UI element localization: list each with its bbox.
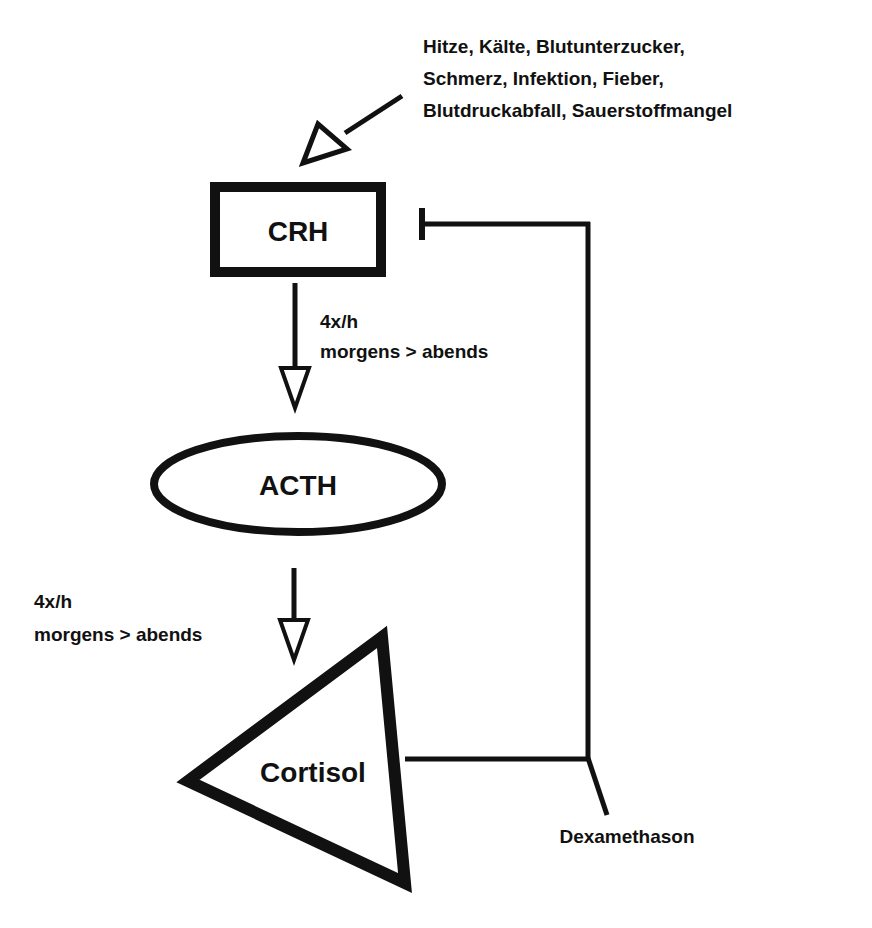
svg-text:Hitze, Kälte, Blutunterzucker,: Hitze, Kälte, Blutunterzucker,	[423, 36, 685, 57]
svg-text:CRH: CRH	[268, 216, 329, 247]
svg-text:Dexamethason: Dexamethason	[559, 826, 694, 847]
crh-to-acth-arrow	[281, 283, 309, 408]
stimuli-label: Hitze, Kälte, Blutunterzucker, Schmerz, …	[423, 36, 732, 121]
svg-text:4x/h: 4x/h	[34, 591, 72, 612]
acth-to-cortisol-label: 4x/h morgens > abends	[34, 591, 202, 645]
svg-text:Schmerz, Infektion, Fieber,: Schmerz, Infektion, Fieber,	[423, 68, 664, 89]
svg-text:ACTH: ACTH	[259, 470, 337, 501]
hpa-axis-diagram: Hitze, Kälte, Blutunterzucker, Schmerz, …	[0, 0, 872, 928]
svg-text:4x/h: 4x/h	[320, 311, 358, 332]
stimuli-arrow	[303, 96, 402, 163]
acth-node: ACTH	[154, 436, 442, 532]
crh-node: CRH	[215, 187, 381, 272]
cortisol-node: Cortisol	[188, 637, 405, 883]
svg-text:morgens > abends: morgens > abends	[320, 341, 488, 362]
svg-text:Cortisol: Cortisol	[260, 757, 366, 788]
dexamethason-branch: Dexamethason	[559, 758, 694, 847]
crh-to-acth-label: 4x/h morgens > abends	[320, 311, 488, 362]
svg-text:morgens > abends: morgens > abends	[34, 624, 202, 645]
svg-text:Blutdruckabfall, Sauerstoffman: Blutdruckabfall, Sauerstoffmangel	[423, 100, 732, 121]
acth-to-cortisol-arrow	[280, 568, 308, 660]
